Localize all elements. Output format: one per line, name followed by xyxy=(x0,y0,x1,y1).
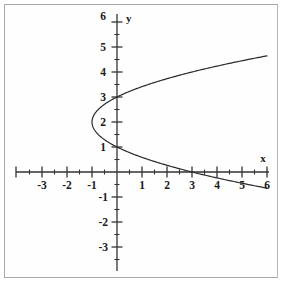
x-tick-label-6: 6 xyxy=(264,179,270,191)
y-tick-label-2: 2 xyxy=(100,116,106,128)
y-axis-label: y xyxy=(126,12,132,24)
x-tick-label-neg1: -1 xyxy=(87,179,97,191)
y-tick-label-neg1: -1 xyxy=(98,191,108,203)
y-tick-label-4: 4 xyxy=(100,66,106,78)
graph-figure: x y 6 5 4 3 2 1 -1 -2 -3 -3 -2 -1 1 2 3 … xyxy=(0,0,282,281)
y-tick-label-neg2: -2 xyxy=(98,216,108,228)
y-tick-label-1: 1 xyxy=(100,141,106,153)
x-tick-label-2: 2 xyxy=(164,179,170,191)
x-axis-label: x xyxy=(260,152,266,164)
x-tick-label-1: 1 xyxy=(139,179,145,191)
x-tick-label-neg2: -2 xyxy=(62,179,72,191)
x-tick-label-neg3: -3 xyxy=(37,179,47,191)
cartesian-plot: x y 6 5 4 3 2 1 -1 -2 -3 -3 -2 -1 1 2 3 … xyxy=(0,0,282,281)
x-tick-label-4: 4 xyxy=(214,179,220,191)
y-tick-label-5: 5 xyxy=(100,41,106,53)
y-tick-label-6: 6 xyxy=(100,10,106,22)
x-tick-label-3: 3 xyxy=(189,179,195,191)
y-tick-label-3: 3 xyxy=(100,91,106,103)
x-tick-label-5: 5 xyxy=(239,179,245,191)
y-tick-label-neg3: -3 xyxy=(98,241,108,253)
